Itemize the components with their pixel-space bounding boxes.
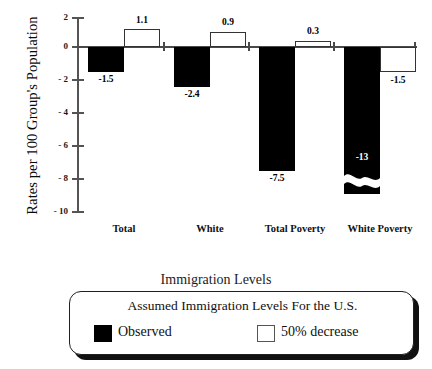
y-tick-label-neg10: - 10 [42,207,68,216]
bar-decrease-total[interactable] [124,29,160,47]
y-tick-label-neg6: - 6 [42,141,68,150]
y-tick-2 [72,17,84,19]
y-tick-neg10 [72,211,84,213]
y-tick-neg6 [72,145,84,147]
bar-label-observed-total: -1.5 [86,74,126,84]
immigration-rates-bar-chart: Rates per 100 Group's Population 2 0 - 2… [0,0,432,369]
y-tick-label-neg4-wrap: - 4 [40,108,68,117]
bar-label-decrease-white-poverty: -1.5 [378,75,418,85]
y-tick-label-neg4: - 4 [42,108,68,117]
bar-observed-white[interactable] [174,47,210,87]
legend-label-observed: Observed [118,324,172,340]
bar-label-observed-white-poverty: -13 [342,152,382,162]
x-tick-sep-3 [333,42,335,51]
y-tick-label-neg2: - 2 [42,75,68,84]
bar-label-observed-white: -2.4 [172,89,212,99]
y-tick-neg4 [72,112,84,114]
bar-label-decrease-white: 0.9 [208,17,248,27]
bar-observed-white-poverty[interactable] [344,47,380,194]
bar-label-observed-total-poverty: -7.5 [257,173,297,183]
bar-decrease-white-poverty[interactable] [380,47,416,72]
legend-swatch-decrease-icon [257,325,275,342]
legend-title: Assumed Immigration Levels For the U.S. [70,298,415,314]
y-tick-label-neg8-wrap: - 8 [40,174,68,183]
bar-observed-total-poverty[interactable] [259,47,295,171]
y-tick-label-2: 2 [42,13,68,22]
legend-label-50-percent-decrease: 50% decrease [281,324,358,340]
legend-box: Assumed Immigration Levels For the U.S. … [69,291,414,355]
plot-area: 2 0 - 2 - 4 - 6 - 8 - 10 -1.5 1.1 [0,0,432,235]
category-label-total-poverty: Total Poverty [255,223,335,234]
bar-label-decrease-total: 1.1 [122,15,162,25]
x-tick-sep-1 [163,42,165,51]
y-tick-neg2 [72,79,84,81]
bar-decrease-total-poverty[interactable] [295,41,331,47]
bar-label-decrease-total-poverty: 0.3 [293,26,333,36]
y-tick-label-0: 0 [42,42,68,51]
bar-decrease-white[interactable] [210,32,246,47]
y-tick-label-neg6-wrap: - 6 [40,141,68,150]
x-tick-sep-2 [248,42,250,51]
y-tick-label-0-wrap: 0 [40,42,68,51]
legend-swatch-observed-icon [94,325,112,342]
y-tick-label-neg2-wrap: - 2 [40,75,68,84]
x-axis-title: Immigration Levels [0,272,432,288]
y-tick-label-neg10-wrap: - 10 [40,207,68,216]
y-tick-label-neg8: - 8 [42,174,68,183]
category-label-white: White [170,223,250,234]
bar-observed-total[interactable] [88,47,124,72]
y-tick-neg8 [72,178,84,180]
category-label-total: Total [84,223,164,234]
y-tick-label-2-wrap: 2 [40,13,68,22]
category-label-white-poverty: White Poverty [340,223,420,234]
